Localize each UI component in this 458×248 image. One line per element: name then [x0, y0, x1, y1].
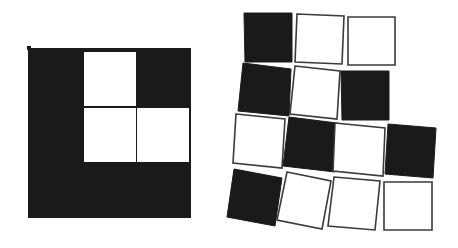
white-tile — [277, 172, 331, 229]
corner-mark — [27, 46, 31, 50]
white-cell — [137, 108, 189, 162]
white-tile — [295, 14, 344, 64]
white-tile — [328, 177, 380, 230]
dark-tile — [385, 124, 436, 178]
white-tile — [233, 114, 285, 168]
tiling-figure — [0, 0, 458, 248]
dark-tile — [244, 13, 292, 62]
dark-tile — [283, 117, 337, 172]
white-tile — [333, 123, 385, 176]
white-tile — [290, 66, 340, 119]
dark-tile — [227, 169, 282, 226]
assembled-square — [27, 46, 191, 218]
white-tile — [384, 182, 432, 230]
white-tile — [348, 17, 395, 65]
white-cell — [84, 52, 136, 106]
loose-tiles — [227, 13, 436, 230]
dark-tile — [341, 71, 389, 120]
dark-tile — [238, 63, 291, 116]
white-cell — [84, 108, 136, 162]
